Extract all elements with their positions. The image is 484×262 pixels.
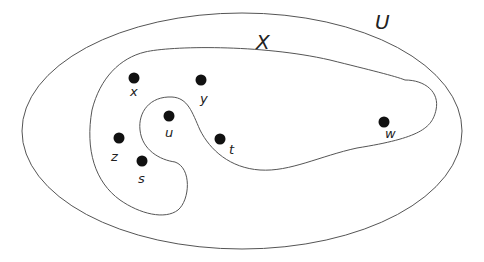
point-s-label: s bbox=[138, 171, 145, 186]
point-z-label: z bbox=[110, 149, 119, 164]
diagram-svg: U X x y u z s t w bbox=[0, 0, 484, 262]
point-s-dot bbox=[137, 156, 148, 167]
point-u-dot bbox=[164, 111, 175, 122]
point-t-label: t bbox=[229, 142, 235, 157]
set-x-label: X bbox=[255, 30, 271, 54]
point-y-dot bbox=[196, 75, 207, 86]
point-x-label: x bbox=[129, 84, 138, 99]
point-t-dot bbox=[215, 134, 226, 145]
set-diagram: U X x y u z s t w bbox=[0, 0, 484, 262]
set-u-label: U bbox=[375, 10, 390, 34]
point-x-dot bbox=[129, 73, 140, 84]
point-z-dot bbox=[114, 133, 125, 144]
point-u-label: u bbox=[165, 125, 173, 140]
point-y-label: y bbox=[199, 91, 208, 106]
point-w-label: w bbox=[385, 126, 396, 141]
